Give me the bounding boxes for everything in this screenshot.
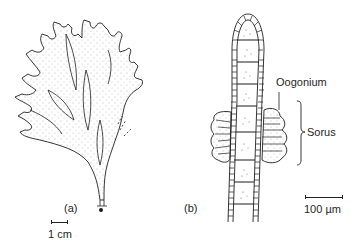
figure: (a) 1 cm <box>0 0 360 252</box>
scale-label-100um: 100 µm <box>304 203 341 215</box>
scale-bar-1cm <box>51 222 68 223</box>
scale-label-1cm: 1 cm <box>48 228 72 240</box>
scale-bar-100um <box>305 197 343 198</box>
panel-a-label: (a) <box>64 202 77 214</box>
holdfast <box>99 208 103 212</box>
filament-drawing <box>180 0 360 230</box>
sorus-label: Sorus <box>307 126 336 138</box>
panel-b-label: (b) <box>184 202 197 214</box>
oogonium-label: Oogonium <box>276 76 327 88</box>
sorus-bracket <box>297 101 305 165</box>
thallus-drawing <box>0 0 180 215</box>
